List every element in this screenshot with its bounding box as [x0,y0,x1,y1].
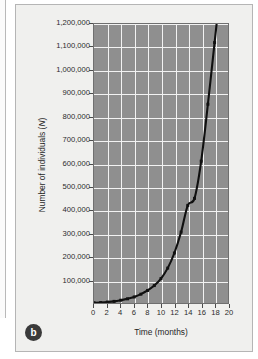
data-point-marker [113,300,116,303]
data-point-marker [94,301,95,303]
curve-data-point-markers [94,41,216,303]
data-point-marker [146,289,149,292]
curve-line [94,24,217,303]
data-point-marker [119,299,122,302]
plot-area [93,23,229,304]
data-point-marker [99,301,102,303]
data-point-marker [173,252,176,255]
x-axis-tick-label: 20 [221,309,237,317]
y-axis-tick-label: 100,000 [63,277,90,285]
data-point-marker [180,231,183,234]
y-axis-tick-label: 200,000 [63,253,90,261]
adjacent-page-edge-strip [0,0,6,318]
x-axis-title: Time (months) [93,327,229,337]
y-axis-tick-label: 700,000 [63,136,90,144]
data-point-marker [193,197,196,200]
panel-label-badge: b [25,324,42,341]
data-point-marker [186,204,189,207]
data-point-marker [153,284,156,287]
y-axis-tick-label: 500,000 [63,183,90,191]
figure-panel: 100,000200,000300,000400,000500,000600,0… [15,4,253,352]
data-point-marker [213,41,216,44]
data-point-marker [160,277,163,280]
data-point-marker [206,103,209,106]
population-growth-curve [94,24,228,303]
data-point-marker [200,160,203,163]
data-point-marker [126,297,129,300]
y-axis-title-text: Number of individuals ( [37,127,47,213]
exponential-growth-chart: 100,000200,000300,000400,000500,000600,0… [16,5,254,353]
y-axis-tick-label: 800,000 [63,113,90,121]
y-axis-tick-label: 900,000 [63,89,90,97]
data-point-marker [139,293,142,296]
data-point-marker [133,295,136,298]
y-axis-tick-label: 1,000,000 [56,66,90,74]
y-axis-tick-label: 1,200,000 [56,19,90,27]
y-axis-tick-label: 400,000 [63,206,90,214]
y-axis-title-paren: ) [37,118,47,121]
y-axis-title: Number of individuals (N) [37,75,47,255]
y-axis-title-variable: N [37,121,47,127]
y-axis-tick-label: 300,000 [63,230,90,238]
data-point-marker [106,301,109,303]
y-axis-tick-labels: 100,000200,000300,000400,000500,000600,0… [26,5,90,353]
y-axis-tick-label: 1,100,000 [56,42,90,50]
data-point-marker [166,267,169,270]
y-axis-tick-label: 600,000 [63,160,90,168]
